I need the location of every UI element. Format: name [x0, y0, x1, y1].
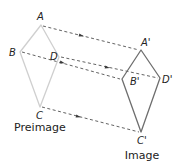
arrow-a-to-a-prime: [43, 26, 139, 50]
vertex-label-d-prime: D': [162, 74, 172, 85]
arrowhead-icon: [79, 33, 85, 37]
translation-diagram: A B C D A' B' C' D' Preimage Image: [0, 0, 182, 165]
preimage-caption: Preimage: [14, 121, 66, 134]
preimage-shape: [20, 25, 59, 107]
vertex-label-c-prime: C': [137, 135, 147, 146]
image-shape: [122, 50, 160, 132]
arrow-d-to-d-prime: [61, 57, 158, 78]
arrowheads: [60, 33, 111, 118]
vertex-label-b-prime: B': [130, 76, 140, 87]
vertex-label-c: C: [36, 110, 43, 121]
vertex-label-a-prime: A': [140, 37, 151, 48]
arrowhead-icon: [60, 60, 66, 64]
arrow-b-to-b-prime: [22, 52, 120, 79]
vertex-label-b: B: [9, 47, 16, 58]
image-caption: Image: [125, 149, 160, 162]
vertex-label-d: D: [50, 51, 58, 62]
vertex-label-a: A: [36, 11, 44, 22]
